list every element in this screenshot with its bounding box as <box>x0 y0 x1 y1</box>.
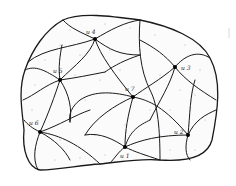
vertex-label-u2: u 2 <box>174 128 184 135</box>
vertex-label-u1: u 1 <box>120 152 130 159</box>
vertex-label-u7: u 7 <box>125 85 135 92</box>
region-boundary <box>21 15 218 170</box>
subdivision-diagram: u 1 u 2 u 3 u 4 u 5 u 6 u 7 <box>0 0 236 186</box>
vertex-label-u6: u 6 <box>29 119 39 126</box>
vertex-label-u3: u 3 <box>181 64 191 71</box>
vertex-label-u4: u 4 <box>86 28 96 35</box>
vertex-label-u5: u 5 <box>53 67 63 74</box>
